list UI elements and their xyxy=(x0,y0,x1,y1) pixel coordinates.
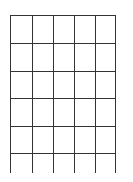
grid-diagram xyxy=(0,0,133,182)
